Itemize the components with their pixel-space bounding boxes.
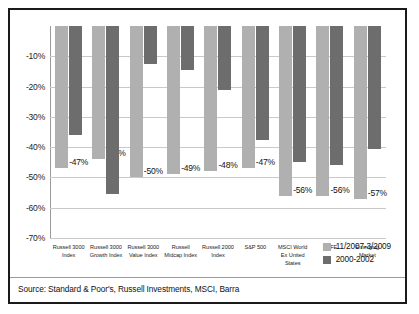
x-axis-category-label: S&P 500 (237, 243, 274, 251)
plot-area: -10%-20%-30%-40%-50%-60%-70%-47%Russell … (50, 26, 386, 238)
bar-period1[interactable] (242, 26, 255, 168)
plot-region: -10%-20%-30%-40%-50%-60%-70%-47%Russell … (50, 26, 386, 238)
bar-group: -44%Russell 3000Growth Index (87, 26, 124, 238)
bar-value-label: -47% (256, 157, 275, 167)
source-bar: Source: Standard & Poor's, Russell Inves… (10, 277, 405, 302)
x-axis-category-label: Russell 3000Growth Index (87, 243, 124, 259)
bar-period1[interactable] (204, 26, 217, 171)
bar-group: -57%EmergingMarket (349, 26, 386, 238)
source-note: Source: Standard & Poor's, Russell Inves… (18, 284, 239, 294)
y-axis-tick-label: -60% (26, 203, 45, 213)
bar-group: -56%EAFE (311, 26, 348, 238)
x-axis-category-label: Russell 3000Value Index (125, 243, 162, 259)
bar-period2[interactable] (69, 26, 82, 135)
bar-period2[interactable] (218, 26, 231, 90)
bar-value-label: -56% (330, 185, 349, 195)
bar-period2[interactable] (256, 26, 269, 140)
bar-group: -49%RussellMidcap Index (162, 26, 199, 238)
legend-label: 2000-2002 (336, 255, 374, 264)
bar-group: -47%Russell 3000Index (50, 26, 87, 238)
legend-item[interactable]: 11/2007-3/2009 (323, 242, 391, 251)
bar-period1[interactable] (130, 26, 143, 177)
legend-swatch-icon (323, 256, 331, 264)
bar-period2[interactable] (293, 26, 306, 162)
gridline (50, 238, 386, 239)
bar-period2[interactable] (181, 26, 194, 70)
y-axis-tick-label: -50% (26, 172, 45, 182)
y-axis-tick-label: -40% (26, 142, 45, 152)
bar-period2[interactable] (330, 26, 343, 165)
y-axis-tick-label: -30% (26, 112, 45, 122)
bar-period1[interactable] (279, 26, 292, 196)
bar-group: -47%S&P 500 (237, 26, 274, 238)
bar-value-label: -47% (69, 157, 88, 167)
bar-value-label: -48% (218, 160, 237, 170)
y-axis-tick-label: -70% (26, 233, 45, 243)
bar-group: -56%MSCI WorldEx United States (274, 26, 311, 238)
bar-value-label: -49% (181, 163, 200, 173)
bar-period1[interactable] (92, 26, 105, 159)
bar-value-label: -50% (144, 166, 163, 176)
x-axis-category-label: Russell 2000Index (199, 243, 236, 259)
bar-period1[interactable] (167, 26, 180, 174)
bar-period2[interactable] (144, 26, 157, 64)
bar-value-label: -56% (293, 185, 312, 195)
bar-period1[interactable] (354, 26, 367, 199)
bar-period1[interactable] (55, 26, 68, 168)
x-axis-category-label: MSCI WorldEx United States (274, 243, 311, 267)
chart-frame: -10%-20%-30%-40%-50%-60%-70%-47%Russell … (8, 8, 407, 304)
bar-period2[interactable] (106, 26, 119, 194)
x-axis-category-label: RussellMidcap Index (162, 243, 199, 259)
bar-period1[interactable] (316, 26, 329, 196)
legend-label: 11/2007-3/2009 (336, 242, 391, 251)
bar-period2[interactable] (368, 26, 381, 149)
chart-legend: 11/2007-3/20092000-2002 (323, 242, 391, 268)
y-axis-tick-label: -20% (26, 82, 45, 92)
x-axis-category-label: Russell 3000Index (50, 243, 87, 259)
y-axis-tick-label: -10% (26, 51, 45, 61)
bar-group: -48%Russell 2000Index (199, 26, 236, 238)
legend-item[interactable]: 2000-2002 (323, 255, 391, 264)
bar-value-label: -57% (368, 188, 387, 198)
bar-group: -50%Russell 3000Value Index (125, 26, 162, 238)
legend-swatch-icon (323, 243, 331, 251)
